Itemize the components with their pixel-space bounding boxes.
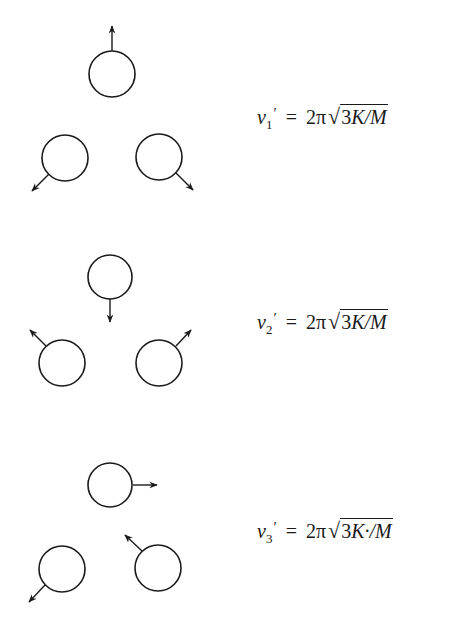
mode-3-frequency-formula: v3′=2π√3K·/M bbox=[257, 520, 393, 545]
mode-1-masses bbox=[32, 26, 193, 191]
radicand: 3K/M bbox=[340, 309, 388, 333]
radicand-ratio: K/M bbox=[351, 311, 387, 333]
mass-circle bbox=[39, 546, 85, 592]
frequency-symbol: v bbox=[257, 106, 266, 128]
mass-circle bbox=[88, 463, 132, 507]
displacement-arrow-icon bbox=[176, 173, 193, 190]
mass-circle bbox=[39, 340, 85, 386]
displacement-arrow-icon bbox=[32, 174, 49, 191]
equals-sign: = bbox=[286, 520, 297, 542]
radicand-ratio: K·/M bbox=[351, 520, 392, 542]
frequency-subscript: 1 bbox=[266, 117, 273, 132]
sqrt-icon: √ bbox=[328, 518, 340, 543]
mass-circle bbox=[89, 51, 135, 97]
coefficient: 2π bbox=[306, 311, 326, 333]
radicand-number: 3 bbox=[341, 311, 351, 333]
mass-circle bbox=[88, 255, 132, 299]
equals-sign: = bbox=[286, 106, 297, 128]
mode-3-masses bbox=[29, 463, 181, 602]
displacement-arrow-icon bbox=[29, 585, 45, 602]
prime-mark: ′ bbox=[273, 310, 276, 326]
radicand: 3K/M bbox=[340, 104, 388, 128]
radicand-ratio: K/M bbox=[351, 106, 387, 128]
frequency-symbol: v bbox=[257, 311, 266, 333]
coefficient: 2π bbox=[306, 520, 326, 542]
radicand: 3K·/M bbox=[340, 518, 393, 542]
mode-2-frequency-formula: v2′=2π√3K/M bbox=[257, 311, 388, 336]
radicand-number: 3 bbox=[341, 106, 351, 128]
mass-circle bbox=[135, 545, 181, 591]
prime-mark: ′ bbox=[273, 519, 276, 535]
mass-circle bbox=[136, 340, 182, 386]
radicand-number: 3 bbox=[341, 520, 351, 542]
prime-mark: ′ bbox=[273, 105, 276, 121]
sqrt-icon: √ bbox=[328, 104, 340, 129]
frequency-symbol: v bbox=[257, 520, 266, 542]
coefficient: 2π bbox=[306, 106, 326, 128]
frequency-subscript: 2 bbox=[266, 322, 273, 337]
mode-2-masses bbox=[30, 255, 191, 386]
displacement-arrow-icon bbox=[30, 330, 46, 346]
displacement-arrow-icon bbox=[176, 330, 191, 346]
mode-1-frequency-formula: v1′=2π√3K/M bbox=[257, 106, 388, 131]
mass-circle bbox=[136, 134, 182, 180]
equals-sign: = bbox=[286, 311, 297, 333]
frequency-subscript: 3 bbox=[266, 531, 273, 546]
displacement-arrow-icon bbox=[125, 535, 142, 551]
sqrt-icon: √ bbox=[328, 309, 340, 334]
